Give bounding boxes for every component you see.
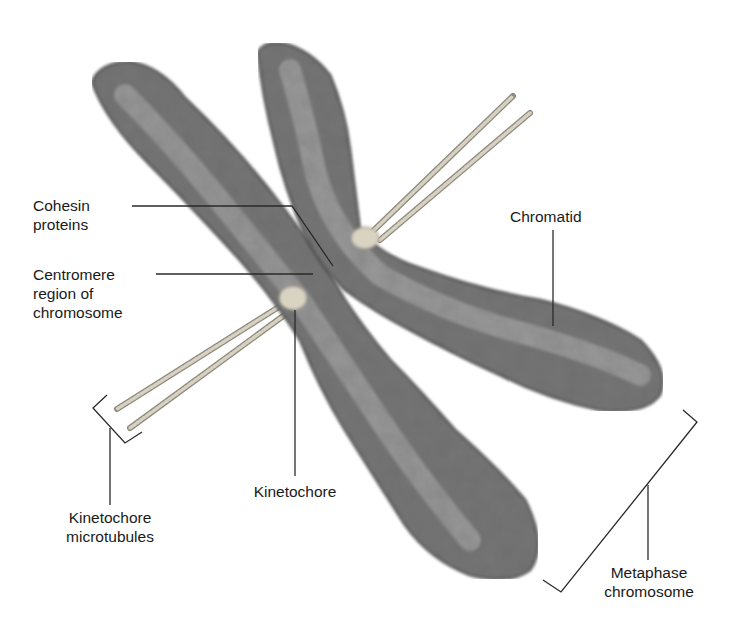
label-line: Metaphase [588,563,710,582]
label-line: Chromatid [510,207,582,226]
label-kinetochore: Kinetochore [237,482,353,501]
label-line: chromosome [588,582,710,601]
bracket-microtubules [93,395,142,443]
label-line: Kinetochore [237,482,353,501]
label-line: Kinetochore [48,508,172,527]
label-cohesin-proteins: Cohesin proteins [33,196,90,234]
label-line: Cohesin [33,196,90,215]
microtubules-lower [117,303,290,428]
label-line: region of [33,284,123,303]
label-line: microtubules [48,527,172,546]
label-metaphase-chromosome: Metaphase chromosome [588,563,710,601]
microtubules-upper [372,96,530,240]
label-chromatid: Chromatid [510,207,582,226]
kinetochore-lower [279,286,307,310]
label-centromere-region: Centromere region of chromosome [33,265,123,322]
label-kinetochore-microtubules: Kinetochore microtubules [48,508,172,546]
label-line: chromosome [33,303,123,322]
label-line: proteins [33,215,90,234]
label-line: Centromere [33,265,123,284]
chromosome-diagram: Cohesin proteins Centromere region of ch… [0,0,742,631]
kinetochore-upper [351,227,379,249]
